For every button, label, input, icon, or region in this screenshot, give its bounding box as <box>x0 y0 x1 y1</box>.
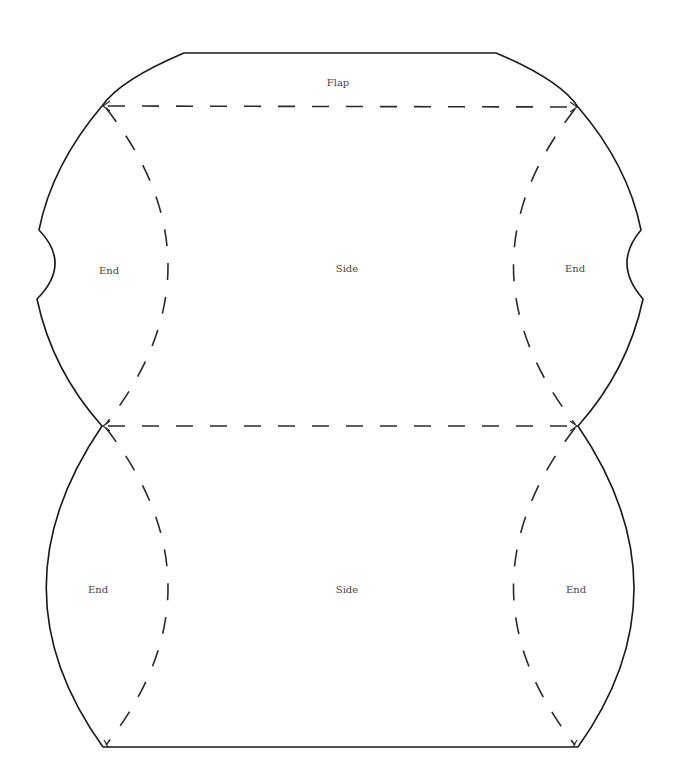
template-drawing: Flap End Side End End Side End <box>0 0 677 783</box>
upper-fold-line <box>108 106 574 107</box>
lower-left-curved-fold <box>106 428 168 745</box>
label-lower-right-end: End <box>566 584 587 595</box>
label-lower-left-end: End <box>88 584 109 595</box>
label-upper-left-end: End <box>99 265 120 276</box>
label-flap: Flap <box>327 77 350 88</box>
label-upper-right-end: End <box>565 263 586 274</box>
label-upper-side: Side <box>336 263 358 274</box>
pillow-box-template: Flap End Side End End Side End <box>0 0 677 783</box>
label-lower-side: Side <box>336 584 358 595</box>
outer-cut-outline <box>37 53 643 747</box>
